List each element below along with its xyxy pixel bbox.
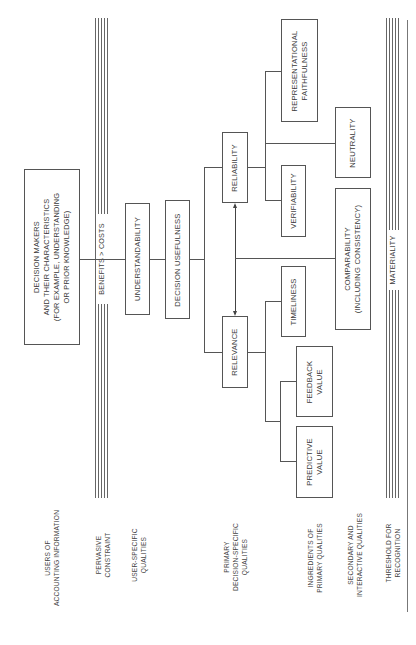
relevance-branch-vertical: [265, 301, 266, 422]
connector-to-feedback-value: [280, 381, 296, 382]
materiality-label: MATERIALITY: [387, 230, 399, 290]
connector-split-vertical: [204, 167, 205, 353]
connector-to-timeliness: [265, 301, 281, 302]
reliability-box: RELIABILITY: [222, 132, 248, 203]
connector-to-reliability: [204, 167, 222, 168]
neutrality-box: NEUTRALITY: [335, 107, 371, 178]
relevance-box: RELEVANCE: [222, 316, 248, 388]
connector-understandability-to-usefulness: [150, 259, 165, 260]
comparability-box: COMPARABILITY (INCLUDING CONSISTENCY): [335, 188, 371, 330]
relevance-reliability-link: [235, 205, 236, 314]
connector-usefulness-to-split: [190, 259, 204, 260]
connector-to-verifiability: [265, 200, 281, 201]
connector-to-relevance: [204, 352, 222, 353]
timeliness-box: TIMELINESS: [281, 266, 306, 337]
representational-faithfulness-box: REPRESENTATIONAL FAITHFULNESS: [281, 19, 318, 122]
connector-to-neutrality: [265, 143, 335, 144]
row-label-user-specific: USER-SPECIFIC QUALITIES: [128, 530, 150, 580]
arrow-down-icon: [233, 311, 237, 316]
reliability-branch-vertical: [265, 71, 266, 201]
row-label-users: USERS OF ACCOUNTING INFORMATION: [40, 500, 64, 616]
row-label-primary-decision-specific: PRIMARY DECISION-SPECIFIC QUALITIES: [220, 524, 250, 590]
row-label-pervasive-constraint: PERVASIVE CONSTRAINT: [92, 530, 114, 580]
connector-to-comparability: [235, 258, 335, 259]
arrow-up-icon: [233, 203, 237, 208]
connector-to-predictive-value: [280, 461, 296, 462]
value-split-vertical: [280, 381, 281, 462]
connector-reliability-out: [248, 167, 265, 168]
connector-top-to-understandability: [80, 259, 125, 260]
baseline-rule: [407, 20, 408, 612]
row-label-secondary-interactive: SECONDARY AND INTERACTIVE QUALITIES: [344, 510, 366, 600]
feedback-value-box: FEEDBACK VALUE: [296, 346, 333, 417]
verifiability-box: VERIFIABILITY: [281, 165, 306, 237]
connector-to-representational-faithfulness: [265, 71, 281, 72]
understandability-box: UNDERSTANDABILITY: [125, 203, 150, 315]
decision-makers-label: DECISION MAKERS AND THEIR CHARACTERISTIC…: [32, 193, 72, 321]
decision-makers-box: DECISION MAKERS AND THEIR CHARACTERISTIC…: [24, 169, 80, 345]
connector-to-value-split: [265, 421, 280, 422]
row-label-ingredients: INGREDIENTS OF PRIMARY QUALITIES: [304, 520, 326, 596]
connector-relevance-out: [248, 352, 265, 353]
decision-usefulness-box: DECISION USEFULNESS: [165, 200, 190, 319]
predictive-value-box: PREDICTIVE VALUE: [296, 426, 333, 498]
row-label-threshold: THRESHOLD FOR RECOGNITION: [382, 520, 404, 586]
